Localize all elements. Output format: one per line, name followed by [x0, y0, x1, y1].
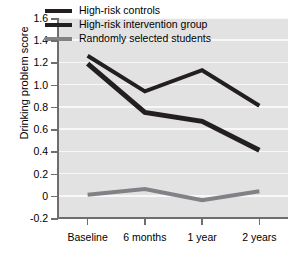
y-tick-label: 0	[8, 190, 48, 202]
y-tick-mark	[51, 107, 58, 109]
legend-item: High-risk controls	[45, 4, 211, 17]
y-tick-label: -0.2	[8, 212, 48, 224]
y-tick-label: 1.0	[8, 79, 48, 91]
x-tick-label: Baseline	[67, 231, 107, 243]
series-line	[88, 56, 260, 106]
legend-item: Randomly selected students	[45, 32, 211, 45]
x-tick-label: 2 years	[242, 231, 276, 243]
legend-item: High-risk intervention group	[45, 18, 211, 31]
y-tick-mark	[51, 18, 58, 20]
y-tick-mark	[51, 129, 58, 131]
x-axis-line	[57, 217, 288, 219]
y-tick-label: 1.6	[8, 12, 48, 24]
y-tick-mark	[51, 85, 58, 87]
legend-swatch-icon	[45, 37, 72, 41]
x-tick-mark	[144, 219, 146, 225]
legend-label: High-risk controls	[79, 5, 160, 16]
y-tick-label: 0.6	[8, 123, 48, 135]
y-tick-mark	[51, 196, 58, 198]
y-axis-line	[57, 18, 59, 218]
x-tick-mark	[259, 219, 261, 225]
x-tick-mark	[87, 219, 89, 225]
y-tick-mark	[51, 218, 58, 220]
series-line	[88, 64, 260, 151]
chart-legend: High-risk controlsHigh-risk intervention…	[45, 4, 211, 45]
chart-figure: Drinking problem score 1.61.41.21.00.80.…	[0, 0, 296, 261]
plot-area	[59, 18, 288, 218]
y-axis-tick-labels: 1.61.41.21.00.80.60.40.20-0.2	[8, 18, 48, 218]
data-series-lines	[59, 18, 288, 218]
y-tick-label: 0.2	[8, 168, 48, 180]
y-tick-label: 0.8	[8, 101, 48, 113]
x-tick-mark	[201, 219, 203, 225]
y-tick-label: 1.4	[8, 34, 48, 46]
x-tick-label: 1 year	[188, 231, 217, 243]
x-tick-label: 6 months	[123, 231, 166, 243]
y-tick-mark	[51, 174, 58, 176]
y-tick-mark	[51, 62, 58, 64]
y-tick-mark	[51, 151, 58, 153]
x-axis-tick-labels: Baseline6 months1 year2 years	[0, 231, 296, 251]
legend-label: Randomly selected students	[79, 33, 211, 44]
y-tick-label: 0.4	[8, 145, 48, 157]
y-tick-mark	[51, 40, 58, 42]
legend-swatch-icon	[45, 23, 72, 27]
y-tick-label: 1.2	[8, 56, 48, 68]
legend-label: High-risk intervention group	[79, 19, 207, 30]
series-line	[88, 189, 260, 200]
legend-swatch-icon	[45, 9, 72, 13]
